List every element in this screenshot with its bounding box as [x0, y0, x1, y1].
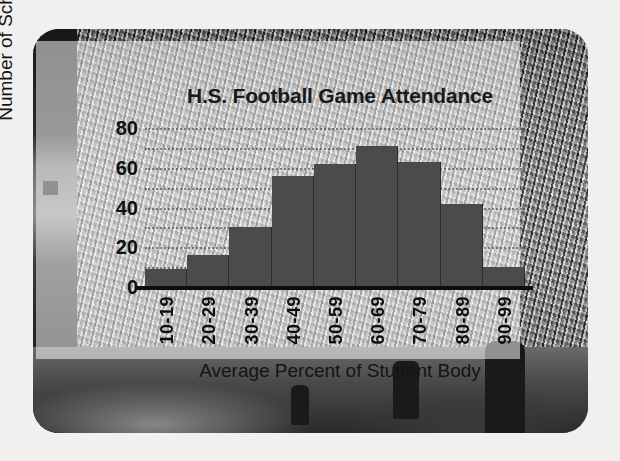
player-silhouette: [291, 385, 309, 425]
y-axis-title: Number of Schools: [0, 0, 17, 140]
y-axis-title-text: Number of Schools: [0, 0, 16, 121]
chart-panel-overlay: [36, 41, 520, 359]
player-silhouette-2: [393, 361, 419, 419]
